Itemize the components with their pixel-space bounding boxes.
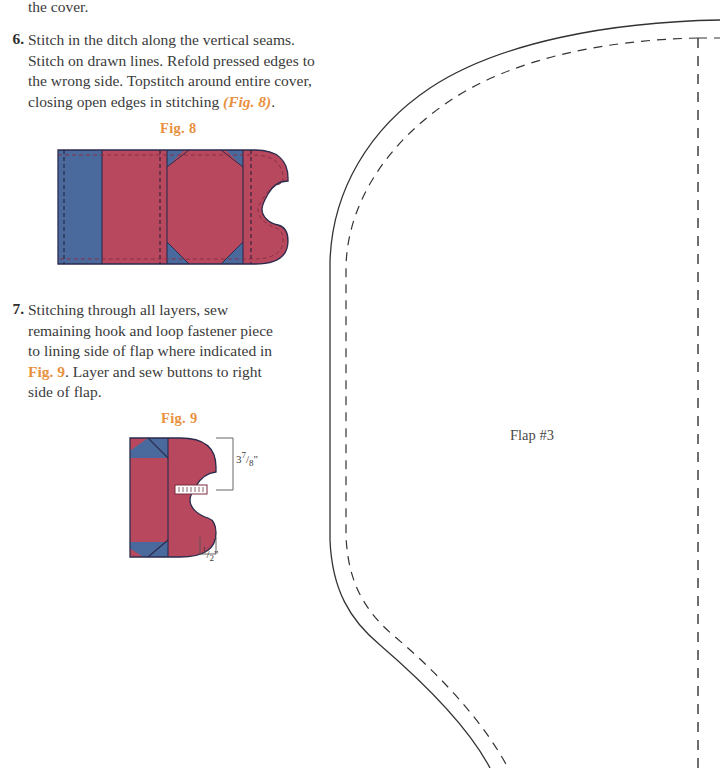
flap-red-center	[120, 458, 168, 542]
step-6: 6. Stitch in the ditch along the vertica…	[0, 30, 330, 112]
dimension-numerator: 7	[242, 450, 247, 460]
figure-8-fabric	[50, 145, 295, 270]
figure-8-caption: Fig. 8	[160, 120, 196, 137]
step-6-text-after: .	[271, 93, 275, 110]
dimension-bracket-vertical	[216, 438, 233, 490]
fabric-pocket-red-overlay	[167, 145, 243, 264]
pattern-seam-line	[346, 38, 698, 768]
dimension2-numerator: 1	[202, 545, 207, 555]
pattern-cutting-line	[330, 20, 720, 768]
instructions-column: the cover. 6. Stitch in the ditch along …	[0, 0, 330, 768]
dimension-label-horizontal: 1/2"	[202, 545, 219, 563]
step-6-number: 6.	[4, 30, 24, 48]
pattern-piece-label: Flap #3	[510, 427, 554, 444]
step-7-text: Stitching through all layers, sew remain…	[28, 300, 330, 403]
figure-9-caption: Fig. 9	[161, 410, 197, 427]
dimension-unit: "	[254, 453, 259, 465]
step-7: 7. Stitching through all layers, sew rem…	[0, 300, 330, 403]
dimension-label-vertical: 37/8"	[236, 450, 258, 468]
step-7-text-before: Stitching through all layers, sew remain…	[28, 301, 273, 359]
step-6-figure-reference: (Fig. 8)	[223, 93, 271, 110]
fastener-hatching	[179, 487, 203, 492]
step-7-figure-reference: Fig. 9	[28, 363, 65, 380]
continued-text: the cover.	[28, 0, 88, 17]
figure-8	[50, 145, 295, 274]
fabric-panel-second-red	[102, 145, 167, 270]
dimension2-unit: "	[214, 548, 219, 560]
step-7-number: 7.	[4, 300, 24, 318]
figure-8-svg	[50, 145, 295, 270]
step-6-text: Stitch in the ditch along the vertical s…	[28, 30, 330, 112]
